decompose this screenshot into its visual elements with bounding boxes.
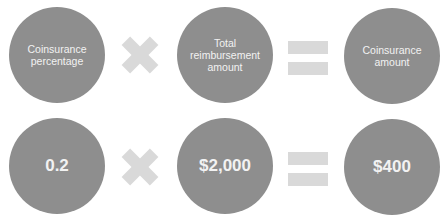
coinsurance-percentage-circle: Coinsurance percentage	[9, 7, 105, 103]
total-reimbursement-circle: Total reimbursement amount	[177, 7, 273, 103]
circle-label: Total reimbursement amount	[190, 37, 260, 73]
percentage-value-circle: 0.2	[9, 118, 105, 214]
circle-value: $400	[373, 157, 411, 177]
circle-value: 0.2	[45, 156, 69, 176]
equals-icon	[288, 152, 328, 186]
circle-value: $2,000	[199, 156, 251, 176]
circle-label: Coinsurance percentage	[28, 43, 87, 67]
reimbursement-value-circle: $2,000	[177, 118, 273, 214]
equals-icon	[288, 41, 328, 75]
coinsurance-amount-circle: Coinsurance amount	[344, 8, 440, 104]
coinsurance-value-circle: $400	[344, 119, 440, 215]
multiply-icon	[122, 37, 158, 73]
multiply-icon	[122, 149, 158, 185]
circle-label: Coinsurance amount	[363, 44, 422, 68]
